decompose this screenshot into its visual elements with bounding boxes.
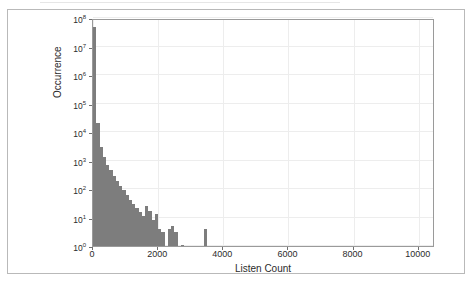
y-axis-tick-label: 101	[0, 214, 92, 224]
histogram-bar	[161, 232, 164, 246]
y-axis-tick-label: 107	[0, 43, 92, 53]
histogram-bar	[204, 229, 207, 246]
y-axis-tick-label: 104	[0, 128, 92, 138]
y-axis-tick-label: 102	[0, 185, 92, 195]
x-axis-tick-label: 2000	[127, 250, 187, 259]
y-axis-tick-label: 108	[0, 14, 92, 24]
gridline-horizontal	[93, 17, 433, 18]
x-axis-tick-label: 6000	[257, 250, 317, 259]
figure-container: 100101102103104105106107108 020004000600…	[0, 0, 474, 284]
histogram-bar	[181, 245, 184, 247]
y-axis-label: Occurrence	[52, 84, 63, 98]
y-axis-tick-label: 103	[0, 157, 92, 167]
histogram-bar	[174, 232, 177, 246]
y-axis-tick-label: 105	[0, 100, 92, 110]
x-axis-tick-label: 0	[62, 250, 122, 259]
histogram-bars	[93, 20, 433, 246]
scan-artifact-line	[40, 2, 340, 3]
x-axis-tick-label: 8000	[323, 250, 383, 259]
plot-area	[92, 19, 434, 247]
y-axis-label-text: Occurrence	[52, 84, 63, 98]
x-axis-label: Listen Count	[92, 263, 434, 274]
x-axis-tick-label: 10000	[388, 250, 448, 259]
y-axis-tick-label: 106	[0, 71, 92, 81]
x-axis-tick-label: 4000	[192, 250, 252, 259]
